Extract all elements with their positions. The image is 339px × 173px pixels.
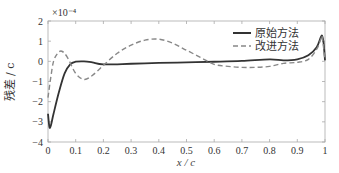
y-tick-label: 1 [38,36,43,47]
x-tick-label: 0 [46,145,51,156]
legend-label-original: 原始方法 [255,26,299,40]
y-tick-label: 0 [38,56,43,67]
x-tick-label: 0.4 [153,145,166,156]
x-axis-label: x / c [176,156,195,168]
y-tick-label: −4 [32,137,43,148]
legend-label-improved: 改进方法 [255,39,299,53]
y-axis-label: 残差 / c [3,63,17,102]
legend: 原始方法 改进方法 [233,26,299,53]
x-tick-label: 0.3 [125,145,138,156]
y-tick-label: −3 [32,116,43,127]
x-tick-label: 0.9 [291,145,304,156]
x-tick-label: 0.6 [208,145,221,156]
y-tick-label: −2 [32,96,43,107]
x-tick-label: 0.7 [236,145,249,156]
y-tick-label: 2 [38,16,43,27]
x-tick-label: 0.1 [69,145,82,156]
x-tick-label: 0.2 [97,145,110,156]
x-tick-label: 1 [323,145,328,156]
x-tick-label: 0.5 [180,145,193,156]
y-multiplier-label: ×10⁻⁴ [52,7,77,18]
x-tick-label: 0.8 [263,145,276,156]
y-tick-label: −1 [32,76,43,87]
line-chart: 00.10.20.30.40.50.60.70.80.91 210−1−2−3−… [0,0,339,173]
